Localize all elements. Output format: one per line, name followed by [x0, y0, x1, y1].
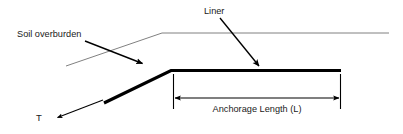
liner-leader-arrow [220, 18, 259, 66]
anchorage-trench-diagram: Soil overburden Liner T Anchorage Length… [0, 0, 403, 134]
tension-label: T [36, 112, 42, 123]
diagram-canvas: Soil overburden Liner T Anchorage Length… [0, 0, 403, 134]
soil-overburden-label: Soil overburden [17, 29, 81, 39]
tension-force-arrow [58, 100, 104, 118]
liner-label: Liner [204, 6, 224, 16]
soil-overburden-leader-arrow [85, 41, 143, 64]
anchorage-length-label: Anchorage Length (L) [213, 104, 302, 114]
soil-overburden-surface-line [66, 33, 389, 66]
